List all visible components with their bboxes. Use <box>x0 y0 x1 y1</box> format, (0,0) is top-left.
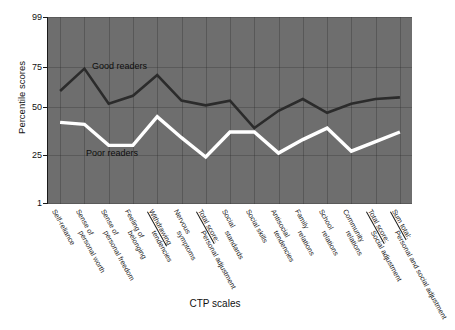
y-tick-label: 99 <box>0 12 42 22</box>
y-tick-label: 1 <box>0 198 42 208</box>
y-axis-title: Percentile scores <box>16 33 27 163</box>
series-line-good-readers <box>60 69 400 129</box>
series-annotation-good-readers: Good readers <box>92 61 147 71</box>
y-tick-mark <box>43 155 47 156</box>
plot-area: Good readers Poor readers <box>48 17 412 204</box>
y-tick-mark <box>43 107 47 108</box>
chart-figure: 997550251 Percentile scores Good readers… <box>0 0 455 330</box>
x-axis-title: CTP scales <box>0 298 430 309</box>
series-annotation-poor-readers: Poor readers <box>86 148 138 158</box>
y-tick-mark <box>43 203 47 204</box>
y-tick-mark <box>43 67 47 68</box>
y-tick-mark <box>43 17 47 18</box>
series-lines <box>48 17 412 204</box>
